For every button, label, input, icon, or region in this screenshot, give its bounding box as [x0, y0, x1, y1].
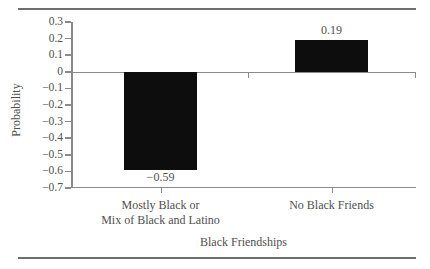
y-tick-4 [65, 88, 71, 90]
y-tick-5 [65, 104, 71, 106]
y-tick-label-9: −0.6 [29, 165, 63, 177]
y-tick-2 [65, 54, 71, 56]
y-tick-label-6: −0.3 [29, 116, 63, 128]
x-axis-tick-2 [332, 187, 334, 193]
y-tick-label-1: 0.2 [29, 33, 63, 45]
bar-chart-plot: Probability 0.30.20.10−0.1−0.2−0.3−0.4−0… [0, 0, 430, 269]
bar-1[interactable] [295, 40, 368, 72]
y-tick-9 [65, 171, 71, 173]
y-tick-0 [65, 21, 71, 23]
y-tick-1 [65, 38, 71, 40]
y-tick-label-0: 0.3 [29, 16, 63, 28]
y-tick-8 [65, 154, 71, 156]
y-tick-label-5: −0.2 [29, 99, 63, 111]
x-axis-title: Black Friendships [71, 236, 416, 249]
x-axis-tick-1 [161, 187, 163, 193]
category-1-line-0: No Black Friends [222, 198, 430, 213]
zero-line-tick-right [415, 72, 417, 78]
y-tick-6 [65, 121, 71, 123]
y-axis-line [71, 22, 73, 188]
y-tick-label-3: 0 [29, 66, 63, 78]
x-axis-line [71, 187, 416, 189]
y-tick-label-4: −0.1 [29, 82, 63, 94]
y-tick-label-2: 0.1 [29, 49, 63, 61]
bar-value-label-0: −0.59 [104, 171, 217, 184]
y-tick-7 [65, 137, 71, 139]
y-tick-label-7: −0.4 [29, 132, 63, 144]
bar-0[interactable] [124, 72, 197, 170]
y-tick-label-10: −0.7 [29, 182, 63, 194]
y-axis-title: Probability [10, 65, 22, 155]
category-label-1: No Black Friends [222, 198, 430, 213]
bar-value-label-1: 0.19 [275, 24, 388, 37]
zero-line-tick-mid [248, 72, 250, 78]
y-tick-label-8: −0.5 [29, 149, 63, 161]
category-0-line-1: Mix of Black and Latino [51, 213, 271, 228]
